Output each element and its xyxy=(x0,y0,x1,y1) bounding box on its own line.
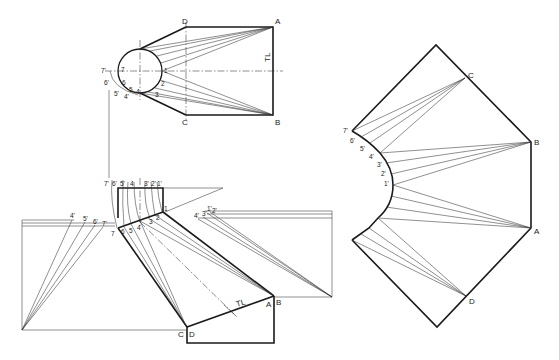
label-tl-front: TL xyxy=(235,297,247,309)
label-D: D xyxy=(182,17,188,26)
label-C: C xyxy=(182,118,188,127)
label-left-7p: 7' xyxy=(102,220,107,227)
label-front-A: A xyxy=(266,300,272,309)
drawing-canvas: D A C B TL 1 2 3 4 5 6 7 7' 6' 5' 4' xyxy=(0,0,559,360)
label-top-6p: 6' xyxy=(112,180,117,187)
label-left-6p: 6' xyxy=(93,218,98,225)
label-tl-top: TL xyxy=(263,52,272,62)
label-pt-7p: 7' xyxy=(101,67,106,74)
label-joint-3: 3 xyxy=(149,218,153,225)
label-pt-7: 7 xyxy=(121,66,125,73)
label-joint-6: 6 xyxy=(121,228,125,235)
label-dev-2p: 2' xyxy=(381,170,386,177)
label-top-1p: 1' xyxy=(157,180,162,187)
label-right-2p: 2' xyxy=(212,207,217,214)
label-front-B: B xyxy=(276,298,281,307)
label-pt-5p: 5' xyxy=(114,90,119,97)
label-joint-4: 4 xyxy=(137,224,141,231)
label-pt-1: 1 xyxy=(164,67,168,74)
label-dev-5p: 5' xyxy=(360,145,365,152)
top-view: D A C B TL 1 2 3 4 5 6 7 7' 6' 5' 4' xyxy=(101,17,283,178)
label-top-5p: 5' xyxy=(120,180,125,187)
label-pt-3: 3 xyxy=(155,91,159,98)
label-pt-6: 6 xyxy=(122,79,126,86)
label-dev-C: C xyxy=(468,71,474,80)
label-dev-4p: 4' xyxy=(369,153,374,160)
label-front-C: C xyxy=(178,330,184,339)
label-dev-B: B xyxy=(534,138,539,147)
label-pt-4: 4 xyxy=(136,88,140,95)
label-joint-2: 2 xyxy=(156,214,160,221)
label-front-D: D xyxy=(189,330,195,339)
label-joint-1: 1 xyxy=(164,205,168,212)
label-top-3p: 3' xyxy=(144,180,149,187)
label-pt-2: 2 xyxy=(161,80,165,87)
label-left-4p: 4' xyxy=(70,212,75,219)
label-dev-A: A xyxy=(534,227,540,236)
label-A: A xyxy=(275,17,281,26)
development-pattern: C B A D 7' 6' 5' 4' 3' 2' 1' xyxy=(343,45,540,327)
label-pt-4p: 4' xyxy=(124,93,129,100)
label-left-5p: 5' xyxy=(83,215,88,222)
label-dev-6p: 6' xyxy=(350,137,355,144)
label-top-2p: 2' xyxy=(151,180,156,187)
label-top-7p: 7' xyxy=(104,180,109,187)
label-top-4: 4 xyxy=(130,180,134,187)
label-joint-7: 7 xyxy=(111,230,115,237)
label-B: B xyxy=(275,118,280,127)
label-dev-1p: 1' xyxy=(384,180,389,187)
label-dev-D: D xyxy=(469,297,475,306)
label-dev-7p: 7' xyxy=(343,127,348,134)
label-right-4p: 4' xyxy=(194,212,199,219)
label-pt-5: 5 xyxy=(129,86,133,93)
label-joint-5: 5 xyxy=(129,227,133,234)
label-pt-6p: 6' xyxy=(104,79,109,86)
front-view: 7' 6' 5' 4 3' 2' 1' 7 6 5 4 3 2 1 4' 5' … xyxy=(22,178,332,343)
label-dev-3p: 3' xyxy=(377,161,382,168)
